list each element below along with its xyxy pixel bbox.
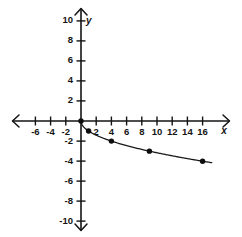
x-axis-label: x [220, 125, 227, 136]
y-axis-label: y [85, 15, 92, 26]
x-tick-label: -4 [46, 126, 55, 137]
x-tick-label: 6 [124, 126, 129, 137]
y-tick-label: 4 [68, 74, 74, 85]
data-point [86, 128, 91, 133]
data-point [200, 159, 205, 164]
y-tick-label: 2 [68, 94, 73, 105]
x-tick-label: 14 [182, 126, 193, 137]
x-tick-label: 16 [197, 126, 208, 137]
y-tick-label: -10 [59, 215, 73, 226]
y-tick-label: -8 [65, 195, 73, 206]
x-tick-label: 4 [109, 126, 115, 137]
cartesian-plot: -6 -4 -2 2 4 6 8 10 12 14 16 10 8 6 4 2 … [0, 0, 242, 237]
data-point [78, 118, 83, 123]
graph-figure: -6 -4 -2 2 4 6 8 10 12 14 16 10 8 6 4 2 … [0, 0, 242, 237]
y-tick-label: 8 [68, 34, 73, 45]
y-tick-label: -2 [65, 135, 73, 146]
x-tick-label: -6 [31, 126, 39, 137]
y-tick-label: -6 [65, 175, 73, 186]
y-tick-label: -4 [65, 155, 74, 166]
data-point [147, 148, 152, 153]
x-tick-labels: -6 -4 -2 2 4 6 8 10 12 14 16 [31, 126, 208, 137]
x-tick-label: 12 [167, 126, 178, 137]
y-tick-label: 6 [68, 54, 73, 65]
y-tick-label: 10 [62, 14, 73, 25]
x-tick-label: 10 [152, 126, 163, 137]
x-tick-label: 8 [139, 126, 144, 137]
data-point [109, 138, 114, 143]
